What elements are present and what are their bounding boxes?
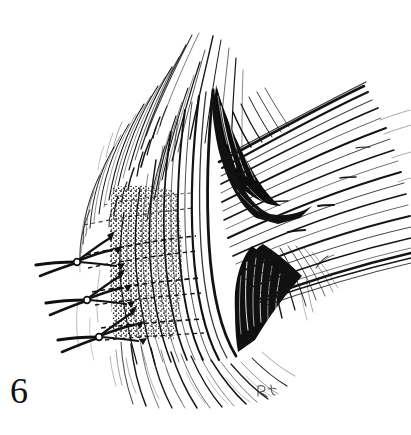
suture-knot-marker-1 — [74, 259, 81, 266]
canvas-background — [0, 0, 411, 435]
suture-knot-marker-2 — [84, 297, 91, 304]
suture-knot-marker-3 — [96, 334, 103, 341]
figure-container: 6 Surgical line drawing: repair of tissu… — [0, 0, 411, 435]
figure-number-label: 6 — [10, 371, 28, 411]
surgical-line-art-illustration — [0, 0, 411, 435]
